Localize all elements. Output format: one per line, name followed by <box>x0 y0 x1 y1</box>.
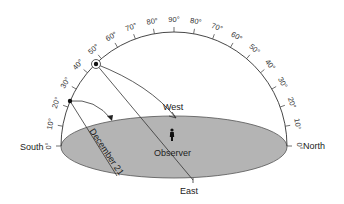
altitude-tick-label: 70° <box>210 21 224 33</box>
altitude-tick-label: 70° <box>124 21 138 33</box>
altitude-tick-label: 30° <box>276 76 289 90</box>
altitude-tick <box>285 125 290 126</box>
high-sun-marker <box>94 62 98 66</box>
altitude-tick <box>63 105 68 107</box>
north-label: North <box>303 141 325 151</box>
altitude-tick-label: 40° <box>263 57 277 71</box>
altitude-tick-label: 20° <box>286 96 298 110</box>
altitude-tick <box>231 43 234 47</box>
altitude-tick-label: 20° <box>50 96 62 110</box>
altitude-tick-label: 10° <box>292 118 303 131</box>
ground-plane <box>61 116 287 178</box>
observer-label: Observer <box>154 148 191 158</box>
altitude-tick <box>194 29 195 34</box>
altitude-tick <box>72 87 76 90</box>
altitude-tick-label: 50° <box>86 42 100 56</box>
south-label: South <box>20 142 44 152</box>
low-sun-marker <box>68 99 72 103</box>
altitude-tick <box>154 29 155 34</box>
east-label: East <box>180 186 199 196</box>
altitude-tick <box>272 87 276 90</box>
altitude-tick-label: 80° <box>189 16 202 27</box>
altitude-tick-label: 90° <box>168 15 179 24</box>
altitude-tick <box>261 70 265 73</box>
altitude-tick-label: 50° <box>247 42 261 56</box>
altitude-tick <box>213 34 215 39</box>
altitude-tick-label: 0° <box>44 142 53 149</box>
altitude-tick <box>98 55 101 59</box>
sun-path-diagram: Observer West East South North December … <box>0 0 344 204</box>
altitude-tick-label: 40° <box>71 57 85 71</box>
altitude-tick <box>280 105 285 107</box>
altitude-tick-label: 80° <box>146 16 159 27</box>
winter-arrowhead <box>107 115 113 121</box>
altitude-tick <box>115 43 118 47</box>
altitude-tick-label: 10° <box>45 118 56 131</box>
altitude-tick-label: 60° <box>104 30 118 43</box>
altitude-tick <box>84 70 88 73</box>
altitude-tick-label: 60° <box>230 30 244 43</box>
altitude-tick-label: 0° <box>295 142 304 149</box>
west-label: West <box>163 102 184 112</box>
altitude-tick <box>247 55 250 59</box>
altitude-tick <box>58 125 63 126</box>
altitude-tick <box>134 34 136 39</box>
altitude-tick-label: 30° <box>59 76 72 90</box>
